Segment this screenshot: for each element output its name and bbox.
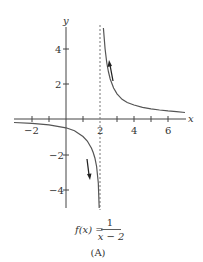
y-tick-label: 2: [55, 79, 61, 90]
graph-figure: y x −2 2 4 6 4 2 −2 −4 f(x) = 1 x − 2 (A…: [0, 0, 203, 262]
x-tick-label: 6: [165, 125, 171, 136]
y-tick-label: 4: [55, 44, 61, 55]
y-tick-label: −2: [49, 150, 64, 161]
function-denominator: x − 2: [98, 231, 125, 242]
x-tick-label: −2: [24, 125, 39, 136]
y-axis-label: y: [62, 15, 69, 26]
right-branch-curve: [103, 28, 185, 113]
figure-label: (A): [90, 247, 105, 258]
x-axis-label: x: [188, 113, 194, 124]
y-tick-label: −4: [49, 185, 64, 196]
x-tick-label: 4: [131, 125, 137, 136]
x-tick-label: 2: [97, 125, 103, 136]
function-numerator: 1: [107, 217, 113, 228]
down-arrow-icon: [87, 159, 92, 180]
